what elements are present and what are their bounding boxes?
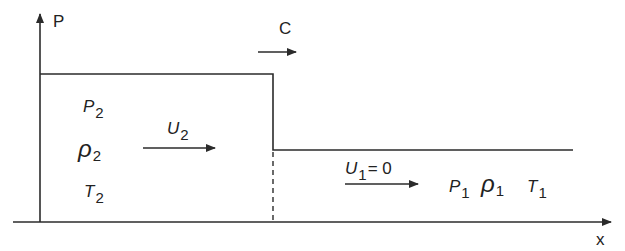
u2-label: U2 xyxy=(167,120,189,137)
t2-label: T2 xyxy=(84,183,104,200)
u1-label: U1= 0 xyxy=(345,160,392,177)
y-axis-label: P xyxy=(53,13,64,30)
shock-diagram: P x C P2 ρ2 T2 U2 U1= 0 P1 ρ1 T1 xyxy=(0,0,625,251)
wave-speed-label: C xyxy=(279,20,291,37)
p1-label: P1 xyxy=(449,178,470,195)
rho1-label: ρ1 xyxy=(481,172,504,196)
pressure-profile xyxy=(40,74,573,150)
x-axis-label: x xyxy=(596,231,605,248)
diagram-lines xyxy=(0,0,625,251)
p2-label: P2 xyxy=(83,98,104,115)
rho2-label: ρ2 xyxy=(78,137,101,161)
t1-label: T1 xyxy=(527,178,547,195)
